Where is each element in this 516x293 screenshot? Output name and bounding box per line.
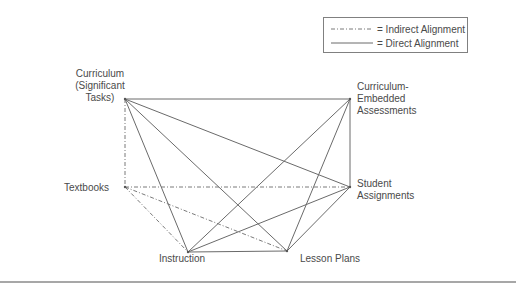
- legend-direct-label: = Direct Alignment: [377, 38, 459, 49]
- node-point-lesson-plans: [286, 250, 288, 252]
- alignment-diagram: = Indirect Alignment = Direct Alignment …: [0, 0, 516, 293]
- node-point-instruction: [187, 251, 189, 253]
- node-label-line: Lesson Plans: [300, 253, 360, 264]
- node-label-curriculum: Curriculum(SignificantTasks): [75, 68, 125, 103]
- node-label-line: Curriculum-: [357, 81, 409, 92]
- edge-direct-cea-lesson-plans: [287, 99, 350, 251]
- node-label-line: Student: [357, 178, 392, 189]
- node-label-lesson-plans: Lesson Plans: [300, 253, 360, 264]
- node-label-line: Curriculum: [76, 68, 124, 79]
- node-label-line: Tasks): [86, 92, 115, 103]
- node-point-curriculum: [124, 98, 126, 100]
- edge-direct-student-assignments-lesson-plans: [287, 187, 350, 251]
- node-point-cea: [349, 98, 351, 100]
- node-label-student-assignments: StudentAssignments: [357, 178, 414, 201]
- node-point-student-assignments: [349, 186, 351, 188]
- legend: = Indirect Alignment = Direct Alignment: [324, 18, 468, 53]
- node-label-line: Instruction: [159, 253, 205, 264]
- edge-direct-cea-instruction: [188, 99, 350, 252]
- node-label-line: Embedded: [357, 93, 405, 104]
- edge-direct-instruction-lesson-plans: [188, 251, 287, 252]
- legend-indirect-label: = Indirect Alignment: [377, 24, 465, 35]
- edges: [125, 99, 350, 252]
- node-point-textbooks: [124, 186, 126, 188]
- edge-direct-curriculum-instruction: [125, 99, 188, 252]
- node-labels: Curriculum(SignificantTasks)Curriculum-E…: [64, 68, 416, 264]
- edge-direct-curriculum-lesson-plans: [125, 99, 287, 251]
- edge-indirect-textbooks-instruction: [125, 187, 188, 252]
- node-label-textbooks: Textbooks: [64, 182, 109, 193]
- node-label-line: Textbooks: [64, 182, 109, 193]
- edge-direct-curriculum-student-assignments: [125, 99, 350, 187]
- node-label-line: Assignments: [357, 190, 414, 201]
- node-label-line: Assessments: [357, 105, 416, 116]
- node-label-cea: Curriculum-EmbeddedAssessments: [357, 81, 416, 116]
- node-label-instruction: Instruction: [159, 253, 205, 264]
- node-label-line: (Significant: [75, 80, 125, 91]
- edge-direct-student-assignments-instruction: [188, 187, 350, 252]
- edge-indirect-textbooks-lesson-plans: [125, 187, 287, 251]
